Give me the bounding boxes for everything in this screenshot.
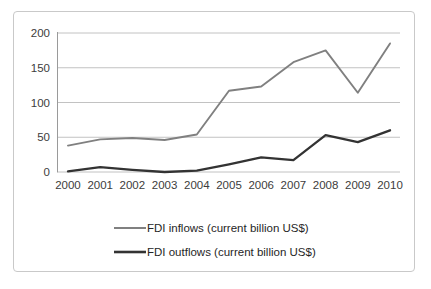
y-axis-tick-labels: 050100150200 <box>31 27 50 178</box>
chart-legend: FDI inflows (current billion US$)FDI out… <box>114 222 316 258</box>
series-line-fdi-outflows <box>68 130 390 172</box>
y-tick-label-200: 200 <box>31 27 50 39</box>
gridlines <box>58 33 400 172</box>
x-tick-label-2008: 2008 <box>313 179 339 191</box>
x-tick-label-2009: 2009 <box>345 179 371 191</box>
x-tick-label-2000: 2000 <box>55 179 81 191</box>
series-line-fdi-inflows <box>68 43 390 145</box>
x-tick-label-2003: 2003 <box>152 179 178 191</box>
x-axis-tick-labels: 2000200120022003200420052006200720082009… <box>55 179 403 191</box>
legend-label-fdi-outflows[interactable]: FDI outflows (current billion US$) <box>147 246 316 258</box>
legend-label-fdi-inflows[interactable]: FDI inflows (current billion US$) <box>147 222 309 234</box>
y-tick-label-150: 150 <box>31 62 50 74</box>
x-tick-label-2006: 2006 <box>248 179 274 191</box>
x-tick-label-2010: 2010 <box>377 179 403 191</box>
y-tick-label-50: 50 <box>37 131 50 143</box>
data-series <box>68 43 390 172</box>
x-tick-label-2004: 2004 <box>184 179 210 191</box>
chart-figure: 050100150200 200020012002200320042005200… <box>0 0 431 289</box>
x-tick-label-2007: 2007 <box>281 179 307 191</box>
y-tick-label-100: 100 <box>31 97 50 109</box>
y-tick-label-0: 0 <box>44 166 50 178</box>
fdi-line-chart: 050100150200 200020012002200320042005200… <box>0 0 431 289</box>
x-tick-label-2005: 2005 <box>216 179 242 191</box>
x-tick-label-2001: 2001 <box>87 179 113 191</box>
x-tick-label-2002: 2002 <box>120 179 146 191</box>
